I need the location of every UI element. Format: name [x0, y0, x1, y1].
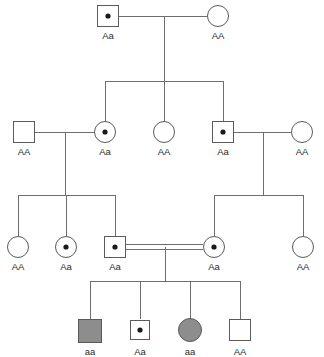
female-circle-symbol: [8, 237, 29, 258]
individual-I-1[interactable]: Aa: [98, 6, 119, 42]
individual-III-1[interactable]: AA: [8, 237, 29, 273]
genotype-label: Aa: [99, 146, 111, 157]
pedigree-chart: Aa AA AA Aa AA: [0, 0, 324, 357]
individual-I-2[interactable]: AA: [208, 6, 229, 42]
female-circle-symbol: [154, 122, 175, 143]
pedigree-diagram: Aa AA AA Aa AA: [0, 0, 324, 357]
genotype-label: aa: [85, 346, 96, 357]
genotype-label: AA: [12, 261, 25, 272]
carrier-dot-icon: [105, 13, 110, 18]
genotype-label: AA: [158, 146, 171, 157]
genotype-label: Aa: [102, 30, 114, 41]
generation-III: AA Aa Aa Aa AA: [8, 237, 314, 273]
generation-II: AA Aa AA Aa AA: [14, 122, 313, 158]
male-square-symbol: [230, 320, 251, 341]
genotype-label: AA: [18, 146, 31, 157]
lineage-connectors: [18, 16, 303, 319]
individual-IV-4[interactable]: AA: [230, 320, 251, 357]
individual-IV-3[interactable]: aa: [179, 319, 202, 357]
individual-III-5[interactable]: AA: [293, 237, 314, 273]
individual-III-2[interactable]: Aa: [56, 237, 77, 273]
carrier-dot-icon: [211, 244, 216, 249]
individual-IV-1[interactable]: aa: [79, 320, 102, 357]
generation-I: Aa AA: [98, 6, 229, 42]
carrier-dot-icon: [137, 327, 142, 332]
genotype-label: Aa: [134, 346, 146, 357]
genotype-label: aa: [185, 346, 196, 357]
individual-II-5[interactable]: AA: [292, 122, 313, 158]
genotype-label: AA: [234, 346, 247, 357]
genotype-label: Aa: [208, 261, 220, 272]
carrier-dot-icon: [63, 244, 68, 249]
genotype-label: AA: [296, 146, 309, 157]
carrier-dot-icon: [102, 129, 107, 134]
carrier-dot-icon: [220, 129, 225, 134]
carrier-dot-icon: [112, 244, 117, 249]
female-circle-symbol: [208, 6, 229, 27]
genotype-label: Aa: [217, 146, 229, 157]
male-square-symbol: [79, 320, 102, 343]
individual-II-3[interactable]: AA: [154, 122, 175, 158]
female-circle-symbol: [179, 319, 202, 342]
individual-II-4[interactable]: Aa: [213, 122, 234, 158]
individual-III-4[interactable]: Aa: [204, 237, 225, 273]
individual-III-3[interactable]: Aa: [105, 237, 126, 273]
individual-II-1[interactable]: AA: [14, 122, 35, 158]
generation-IV: aa Aa aa AA: [79, 319, 251, 357]
genotype-label: AA: [297, 261, 310, 272]
individual-II-2[interactable]: Aa: [95, 122, 116, 158]
genotype-label: Aa: [109, 261, 121, 272]
female-circle-symbol: [292, 122, 313, 143]
individual-IV-2[interactable]: Aa: [131, 321, 150, 357]
genotype-label: Aa: [60, 261, 72, 272]
genotype-label: AA: [212, 30, 225, 41]
female-circle-symbol: [293, 237, 314, 258]
male-square-symbol: [14, 122, 35, 143]
